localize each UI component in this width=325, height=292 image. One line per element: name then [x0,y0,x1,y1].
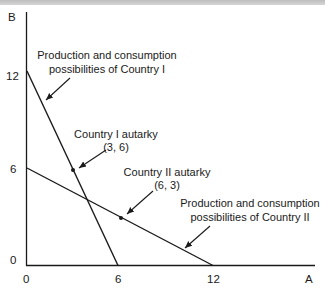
country-2-autarky-point [119,216,123,220]
country-2-ppf-label-line1: Production and consumption [180,197,319,209]
country-1-ppf-label-line1: Production and consumption [37,49,176,61]
country-2-autarky-arrow-icon [127,191,153,214]
country-2-ppf-label-line2: possibilities of Country II [190,211,309,223]
y-tick-0: 0 [10,254,16,266]
x-tick-6: 6 [115,273,121,285]
x-tick-0: 0 [23,273,29,285]
ppf-diagram: B A 12 6 0 0 6 12 Production and consump… [0,0,325,292]
country-1-autarky-label-line2: (3, 6) [103,141,129,153]
country-1-autarky-point [71,168,75,172]
country-2-autarky-label-line2: (6, 3) [154,179,180,191]
country-2-ppf-arrow-icon [185,226,210,248]
y-axis-label: B [8,11,16,23]
x-axis-label: A [305,273,313,285]
country-1-autarky-label-line1: Country I autarky [74,128,158,140]
x-tick-12: 12 [207,273,220,285]
country-2-autarky-label-line1: Country II autarky [124,166,211,178]
country-1-ppf-arrow-icon [46,78,70,100]
country-1-autarky-arrow-icon [79,150,106,168]
y-tick-6: 6 [10,163,16,175]
country-1-ppf-label-line2: possibilities of Country I [49,63,165,75]
y-tick-12: 12 [6,70,19,82]
